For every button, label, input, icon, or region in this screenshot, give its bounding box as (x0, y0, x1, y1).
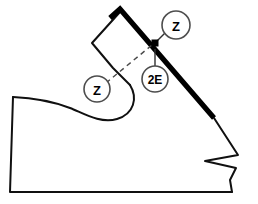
shoe-body-outline (10, 97, 232, 192)
balloon-2e-label: 2E (148, 73, 163, 87)
callout-balloon-z-lower[interactable]: Z (84, 76, 110, 102)
quarter-vamp-curve (13, 85, 134, 120)
shoe-profile-drawing: Z 2E Z (0, 0, 258, 204)
toe-notch-detail (205, 118, 238, 192)
balloon-z-lower-label: Z (93, 83, 101, 98)
shoe-pattern-diagram: Z 2E Z (0, 0, 258, 204)
balloon-z-upper-label: Z (172, 19, 180, 34)
callout-balloon-2e[interactable]: 2E (142, 66, 168, 92)
seam-node-marker (152, 40, 158, 46)
callout-balloon-z-upper[interactable]: Z (162, 11, 190, 39)
tongue-panel-outline (92, 12, 130, 85)
